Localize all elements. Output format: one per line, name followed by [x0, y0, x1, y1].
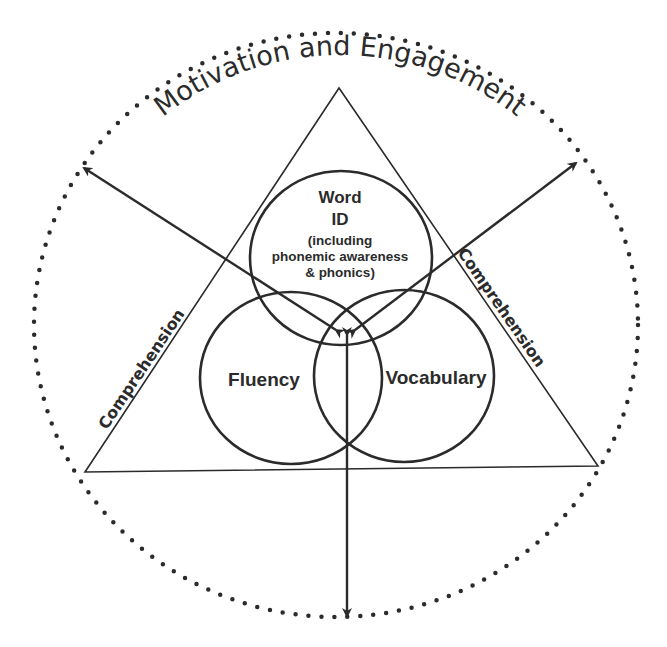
- word-id-label-line3: (including: [308, 233, 373, 248]
- outer-ring-label: Motivation and Engagement: [148, 30, 533, 122]
- fluency-label: Fluency: [228, 369, 300, 390]
- word-id-label-line2: ID: [332, 210, 349, 229]
- outer-dotted-ring: [34, 33, 638, 617]
- comprehension-triangle: [85, 88, 598, 472]
- triangle-right-label: Comprehension: [454, 244, 550, 370]
- literacy-model-diagram: Motivation and Engagement Comprehension …: [0, 0, 667, 647]
- vocabulary-label: Vocabulary: [385, 367, 486, 388]
- arrow-upper-right: [355, 163, 576, 330]
- triangle-left-label: Comprehension: [94, 305, 188, 432]
- word-id-label-line1: Word: [318, 188, 361, 207]
- word-id-label-line5: & phonics): [305, 265, 375, 280]
- word-id-label-line4: phonemic awareness: [272, 249, 409, 264]
